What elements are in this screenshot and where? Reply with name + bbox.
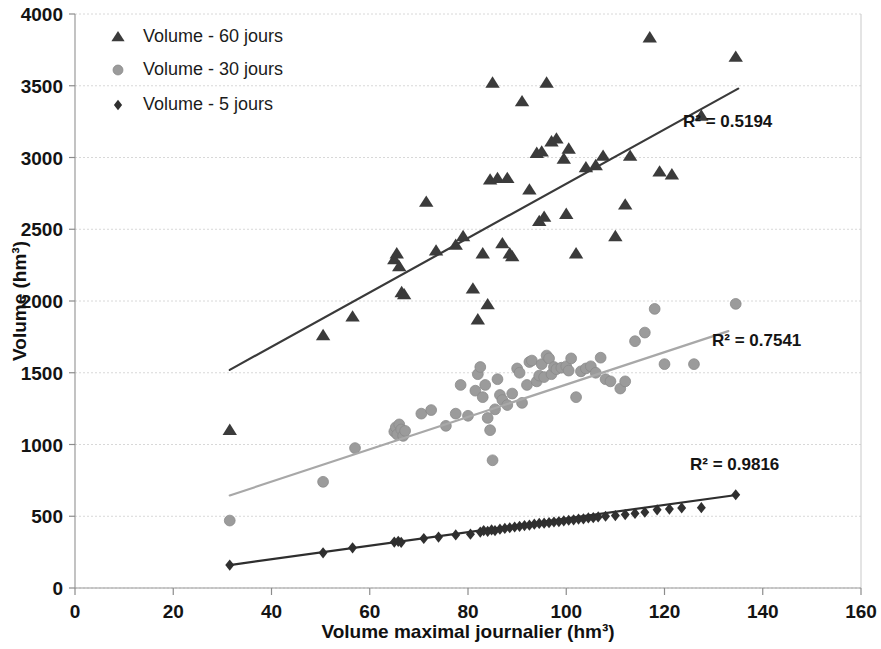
data-point-circle (450, 408, 461, 419)
data-point-circle (455, 380, 466, 391)
y-tick-label: 0 (52, 578, 63, 599)
x-tick-label: 160 (845, 601, 877, 622)
data-point-triangle (480, 298, 494, 309)
y-tick-label: 1500 (21, 363, 63, 384)
data-point-circle (571, 392, 582, 403)
r-squared-label-series-3: R² = 0.9816 (690, 455, 779, 474)
data-point-triangle (562, 142, 576, 153)
data-point-circle (522, 380, 533, 391)
data-point-triangle (618, 198, 632, 209)
data-point-circle (426, 405, 437, 416)
data-point-triangle (557, 152, 571, 163)
data-point-triangle (476, 247, 490, 258)
r-squared-label-series-2: R² = 0.7541 (712, 331, 801, 350)
data-point-circle (477, 392, 488, 403)
data-point-circle (480, 380, 491, 391)
data-point-circle (566, 353, 577, 364)
trendline-series-1 (230, 89, 738, 370)
data-point-triangle (419, 195, 433, 206)
x-tick-label: 40 (261, 601, 282, 622)
x-tick-label: 20 (163, 601, 184, 622)
data-point-triangle (111, 31, 124, 41)
y-tick-label: 500 (31, 506, 63, 527)
legend-label-1: Volume - 60 jours (143, 26, 283, 46)
y-tick-label: 3500 (21, 76, 63, 97)
data-point-triangle (495, 237, 509, 248)
x-tick-label: 60 (359, 601, 380, 622)
data-point-diamond (697, 502, 706, 513)
data-point-triangle (515, 95, 529, 106)
data-point-triangle (539, 76, 553, 87)
x-tick-label: 80 (457, 601, 478, 622)
data-point-circle (630, 336, 641, 347)
data-point-circle (514, 367, 525, 378)
r-squared-label-series-1: R² = 0.5194 (683, 112, 773, 131)
x-tick-label: 0 (70, 601, 81, 622)
data-point-circle (400, 425, 411, 436)
scatter-chart: 0500100015002000250030003500400002040608… (0, 0, 881, 649)
data-point-triangle (485, 76, 499, 87)
data-point-circle (487, 455, 498, 466)
chart-canvas: 0500100015002000250030003500400002040608… (0, 0, 881, 649)
data-point-circle (689, 359, 700, 370)
y-tick-label: 3000 (21, 148, 63, 169)
data-point-circle (113, 65, 123, 75)
legend-label-3: Volume - 5 jours (143, 94, 273, 114)
x-tick-label: 140 (747, 601, 779, 622)
y-tick-label: 4000 (21, 4, 63, 25)
data-point-triangle (569, 247, 583, 258)
data-point-triangle (522, 183, 536, 194)
data-point-circle (482, 413, 493, 424)
data-point-triangle (608, 230, 622, 241)
x-axis-title: Volume maximal journalier (hm³) (321, 621, 614, 642)
y-axis-title: Volume (hm³) (9, 241, 30, 361)
data-point-circle (730, 298, 741, 309)
data-point-circle (649, 303, 660, 314)
data-point-triangle (471, 313, 485, 324)
data-point-triangle (456, 230, 470, 241)
data-point-circle (639, 327, 650, 338)
data-point-triangle (345, 310, 359, 321)
trendlines (230, 89, 738, 565)
data-point-triangle (500, 172, 514, 183)
data-point-circle (475, 362, 486, 373)
y-tick-label: 1000 (21, 435, 63, 456)
data-point-triangle (223, 424, 237, 435)
data-point-circle (595, 352, 606, 363)
y-tick-label: 2500 (21, 219, 63, 240)
data-point-triangle (596, 149, 610, 160)
data-point-triangle (390, 247, 404, 258)
legend: Volume - 60 joursVolume - 30 joursVolume… (111, 26, 283, 114)
data-point-circle (507, 388, 518, 399)
data-point-circle (659, 359, 670, 370)
data-point-circle (492, 374, 503, 385)
data-point-circle (605, 376, 616, 387)
data-point-circle (485, 425, 496, 436)
data-point-circle (563, 365, 574, 376)
data-point-diamond (114, 100, 122, 110)
data-point-triangle (729, 50, 743, 61)
data-point-triangle (643, 31, 657, 42)
data-point-circle (620, 376, 631, 387)
legend-label-2: Volume - 30 jours (143, 59, 283, 79)
trendline-series-2 (230, 331, 729, 495)
data-point-circle (526, 355, 537, 366)
r-squared-annotations: R² = 0.5194R² = 0.7541R² = 0.9816 (683, 112, 801, 474)
data-point-circle (416, 408, 427, 419)
trendline-series-3 (230, 495, 738, 565)
data-point-triangle (466, 282, 480, 293)
data-point-circle (318, 476, 329, 487)
data-point-triangle (652, 165, 666, 176)
x-tick-label: 100 (550, 601, 582, 622)
data-point-triangle (316, 329, 330, 340)
data-point-triangle (559, 208, 573, 219)
data-point-circle (224, 515, 235, 526)
x-tick-label: 120 (649, 601, 681, 622)
data-point-triangle (665, 168, 679, 179)
